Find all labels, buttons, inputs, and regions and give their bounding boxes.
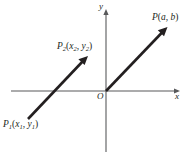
origin-label: O — [97, 92, 104, 101]
x-axis-label: x — [175, 92, 179, 101]
vector-o-p-shaft — [106, 32, 163, 92]
point-label-p2: P2(x2, y2) — [57, 42, 92, 52]
vector-o-p — [106, 27, 168, 91]
point-label-p1-arg1-subscript: 1 — [19, 123, 22, 130]
point-label-p1: P1(x1, y1) — [3, 120, 38, 130]
y-axis-label: y — [99, 2, 103, 11]
point-label-p-close-paren: ) — [175, 12, 178, 22]
point-label-p2-base: P — [57, 41, 63, 51]
point-label-p1-close-paren: ) — [35, 119, 38, 129]
vector-p1-p2-shaft — [28, 61, 84, 120]
point-label-p1-base: P — [3, 119, 9, 129]
point-label-p2-subscript: 2 — [63, 45, 66, 52]
coordinate-diagram: y x O P1(x1, y1) P2(x2, y2) P(a, b) — [0, 0, 194, 160]
point-label-p2-close-paren: ) — [89, 41, 92, 51]
x-axis — [11, 88, 180, 93]
point-label-p1-arg2-subscript: 1 — [32, 123, 35, 130]
y-axis — [103, 9, 108, 152]
vector-p1-p2 — [28, 56, 88, 119]
point-label-p2-arg1-subscript: 2 — [73, 45, 76, 52]
y-axis-arrowhead-icon — [103, 9, 108, 15]
point-label-p2-arg2-subscript: 2 — [86, 45, 89, 52]
point-label-p1-subscript: 1 — [9, 123, 12, 130]
point-label-p: P(a, b) — [152, 13, 178, 23]
diagram-canvas — [0, 0, 194, 160]
